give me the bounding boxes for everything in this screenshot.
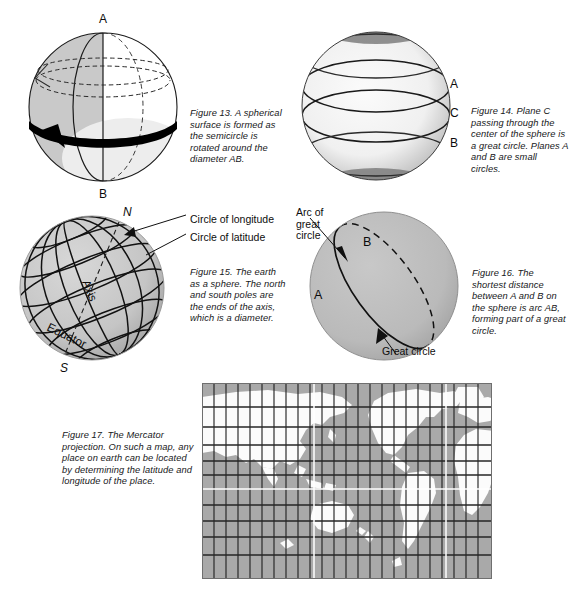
figure-plate: A B Figure 13. A spherical surface is fo… <box>0 0 571 590</box>
figure-13-illustration: A B <box>18 8 188 200</box>
figure-14-label-b: B <box>450 136 458 150</box>
circle-of-longitude-callout: Circle of longitude <box>190 213 274 226</box>
figure-15-caption: Figure 15. The earth as a sphere. The no… <box>190 267 286 325</box>
great-circle-callout: Great circle <box>382 345 436 358</box>
figure-16-label-b: B <box>363 235 371 249</box>
figure-16-caption: Figure 16. The shortest distance between… <box>472 268 568 338</box>
figure-16-label-a: A <box>314 288 323 302</box>
figure-15-label-south: S <box>60 361 68 374</box>
figure-13-label-a: A <box>99 12 107 26</box>
mercator-map-canvas <box>202 383 492 579</box>
figure-14-caption: Figure 14. Plane C passing through the c… <box>471 106 569 176</box>
figure-14-illustration: A C B <box>298 14 463 198</box>
figure-14-label-c: C <box>450 106 459 120</box>
figure-13-caption: Figure 13. A spherical surface is formed… <box>190 108 286 166</box>
arc-of-great-circle-callout: Arc of great circle <box>296 207 342 242</box>
figure-15-leader-lines <box>100 203 196 259</box>
circle-of-latitude-callout: Circle of latitude <box>190 231 265 244</box>
figure-14-label-a: A <box>450 77 458 91</box>
figure-17-caption: Figure 17. The Mercator projection. On s… <box>62 430 194 488</box>
figure-17-mercator-map <box>202 383 492 579</box>
